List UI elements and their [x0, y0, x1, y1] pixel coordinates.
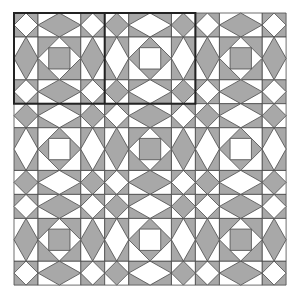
center-inner-square [230, 229, 251, 250]
quilt-block-B-r0c1 [105, 13, 196, 104]
center-inner-square [139, 138, 160, 159]
center-inner-square [49, 138, 70, 159]
quilt-block-A-r0c0 [14, 13, 105, 104]
quilt-block-A-r1c1 [105, 104, 196, 195]
quilt-block-B-r1c2 [195, 104, 286, 195]
quilt-block-B-r1c0 [14, 104, 105, 195]
center-inner-square [230, 48, 251, 69]
center-inner-square [230, 138, 251, 159]
quilt-block-B-r2c1 [105, 194, 196, 285]
center-inner-square [49, 48, 70, 69]
center-inner-square [139, 48, 160, 69]
center-inner-square [49, 229, 70, 250]
quilt-block-A-r2c0 [14, 194, 105, 285]
quilt-block-A-r2c2 [195, 194, 286, 285]
center-inner-square [139, 229, 160, 250]
quilt-block-A-r0c2 [195, 13, 286, 104]
quilt-pattern-diagram [0, 0, 302, 305]
